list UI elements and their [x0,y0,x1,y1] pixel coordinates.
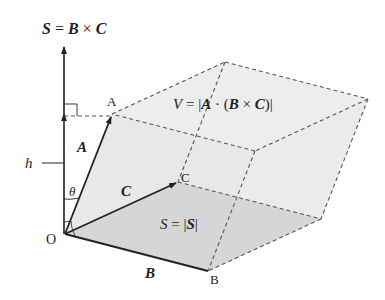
point-a-label: A [107,94,117,109]
volume-equation: V = |A · (B × C)| [173,96,273,113]
area-equation: S = |S| [160,216,198,232]
vector-b-label: B [144,265,155,281]
s-vector-equation: S = B × C [42,20,107,37]
height-arrow-icon [61,113,67,121]
height-label: h [25,155,33,171]
point-c-label: C [181,170,190,185]
point-b-label: B [210,272,219,287]
diagram-canvas: S = B × C V = |A · (B × C)| S = |S| A C … [0,0,385,300]
parallelepiped-diagram: S = B × C V = |A · (B × C)| S = |S| A C … [0,0,385,300]
right-angle-icon [64,104,77,116]
theta-label: θ [69,184,76,199]
point-o-label: O [46,232,56,247]
vector-c-label: C [121,183,132,199]
vector-a-label: A [76,139,87,155]
